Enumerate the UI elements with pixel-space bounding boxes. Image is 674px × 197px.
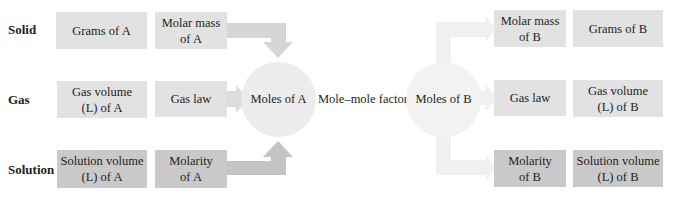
box-gas-law-a: Gas law	[155, 81, 227, 117]
box-label: Gas volume (L) of B	[588, 83, 648, 115]
box-label: Gas law	[171, 91, 212, 107]
box-label: Molarity of A	[169, 153, 213, 185]
box-solution-volume-of-b: Solution volume (L) of B	[573, 150, 663, 187]
box-molarity-of-a: Molarity of A	[155, 150, 227, 188]
row-label-solution: Solution	[8, 162, 54, 178]
box-grams-of-b: Grams of B	[573, 10, 663, 47]
circle-label: Moles of A	[250, 92, 306, 107]
circle-moles-of-a: Moles of A	[241, 62, 316, 137]
arrow-molarity-a-to-moles-a	[227, 141, 293, 175]
box-label: Grams of A	[72, 23, 130, 39]
box-label: Gas law	[510, 90, 551, 106]
box-label: Molar mass of B	[501, 13, 560, 45]
box-gas-law-b: Gas law	[494, 80, 566, 116]
box-molar-mass-of-b: Molar mass of B	[494, 10, 566, 47]
box-label: Solution volume (L) of B	[577, 153, 660, 185]
row-label-gas: Gas	[8, 92, 30, 108]
box-label: Gas volume (L) of A	[72, 84, 132, 116]
box-molar-mass-of-a: Molar mass of A	[155, 12, 227, 49]
stoichiometry-diagram: Solid Gas Solution Grams of A Molar mass…	[0, 0, 674, 197]
mole-mole-factor-label: Mole–mole factor	[318, 92, 408, 107]
row-label-solid: Solid	[8, 22, 36, 38]
box-label: Grams of B	[589, 21, 647, 37]
box-gas-volume-of-a: Gas volume (L) of A	[57, 81, 147, 118]
arrow-molar-mass-a-to-moles-a	[227, 23, 293, 58]
box-solution-volume-of-a: Solution volume (L) of A	[57, 150, 147, 188]
box-label: Molarity of B	[508, 153, 552, 185]
box-grams-of-a: Grams of A	[56, 12, 147, 49]
circle-label: Moles of B	[415, 92, 471, 107]
box-molarity-of-b: Molarity of B	[494, 150, 566, 187]
box-label: Molar mass of A	[162, 15, 221, 47]
circle-moles-of-b: Moles of B	[406, 62, 481, 137]
box-label: Solution volume (L) of A	[61, 153, 144, 185]
box-gas-volume-of-b: Gas volume (L) of B	[573, 80, 663, 117]
